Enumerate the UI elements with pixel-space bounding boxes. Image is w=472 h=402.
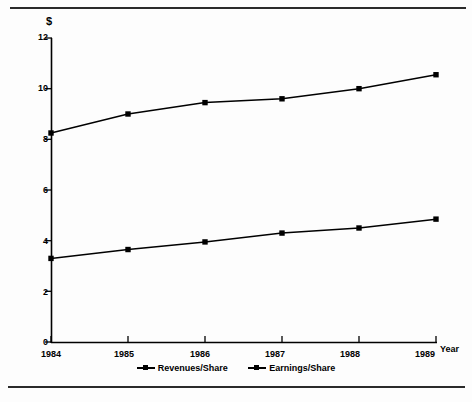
- data-point-marker: [125, 111, 130, 116]
- y-axis-title: $: [46, 15, 52, 27]
- legend-marker-icon: [248, 364, 266, 371]
- x-tick-label-1986: 1986: [180, 350, 220, 359]
- x-tick-label-1984: 1984: [31, 350, 71, 359]
- y-tick-label-0: 0: [22, 338, 48, 347]
- data-point-marker: [356, 86, 361, 91]
- x-tick-label-1988: 1988: [330, 350, 370, 359]
- y-tick-label-6: 6: [22, 186, 48, 195]
- data-point-marker: [279, 96, 284, 101]
- data-point-marker: [202, 100, 207, 105]
- scanned-page: $ Year 12 10 8 6 4 2 0 1984 1985 1986 19…: [0, 0, 472, 402]
- series-line: [51, 219, 436, 258]
- plot-area: [0, 0, 472, 402]
- data-point-marker: [433, 72, 438, 77]
- y-tick-label-4: 4: [22, 237, 48, 246]
- x-tick-label-1987: 1987: [255, 350, 295, 359]
- data-point-marker: [279, 230, 284, 235]
- series-1: [48, 72, 438, 136]
- y-tick-label-2: 2: [22, 288, 48, 297]
- data-point-marker: [356, 225, 361, 230]
- data-point-marker: [125, 247, 130, 252]
- data-point-marker: [48, 130, 53, 135]
- legend-marker-icon: [137, 364, 155, 371]
- series-line: [51, 75, 436, 133]
- line-chart: $ Year 12 10 8 6 4 2 0 1984 1985 1986 19…: [0, 0, 472, 402]
- data-point-marker: [202, 239, 207, 244]
- series-2: [48, 216, 438, 261]
- y-tick-label-12: 12: [22, 33, 48, 42]
- x-tick-label-1989: 1989: [405, 350, 445, 359]
- data-point-marker: [48, 256, 53, 261]
- legend-label-revenues: Revenues/Share: [158, 363, 228, 373]
- legend-entry-earnings: Earnings/Share: [248, 362, 335, 373]
- data-point-marker: [433, 216, 438, 221]
- y-tick-label-8: 8: [22, 135, 48, 144]
- chart-legend: Revenues/Share Earnings/Share: [0, 362, 472, 373]
- y-tick-label-10: 10: [22, 84, 48, 93]
- legend-label-earnings: Earnings/Share: [269, 363, 335, 373]
- legend-entry-revenues: Revenues/Share: [137, 362, 228, 373]
- series-layer: [48, 72, 438, 261]
- x-tick-label-1985: 1985: [104, 350, 144, 359]
